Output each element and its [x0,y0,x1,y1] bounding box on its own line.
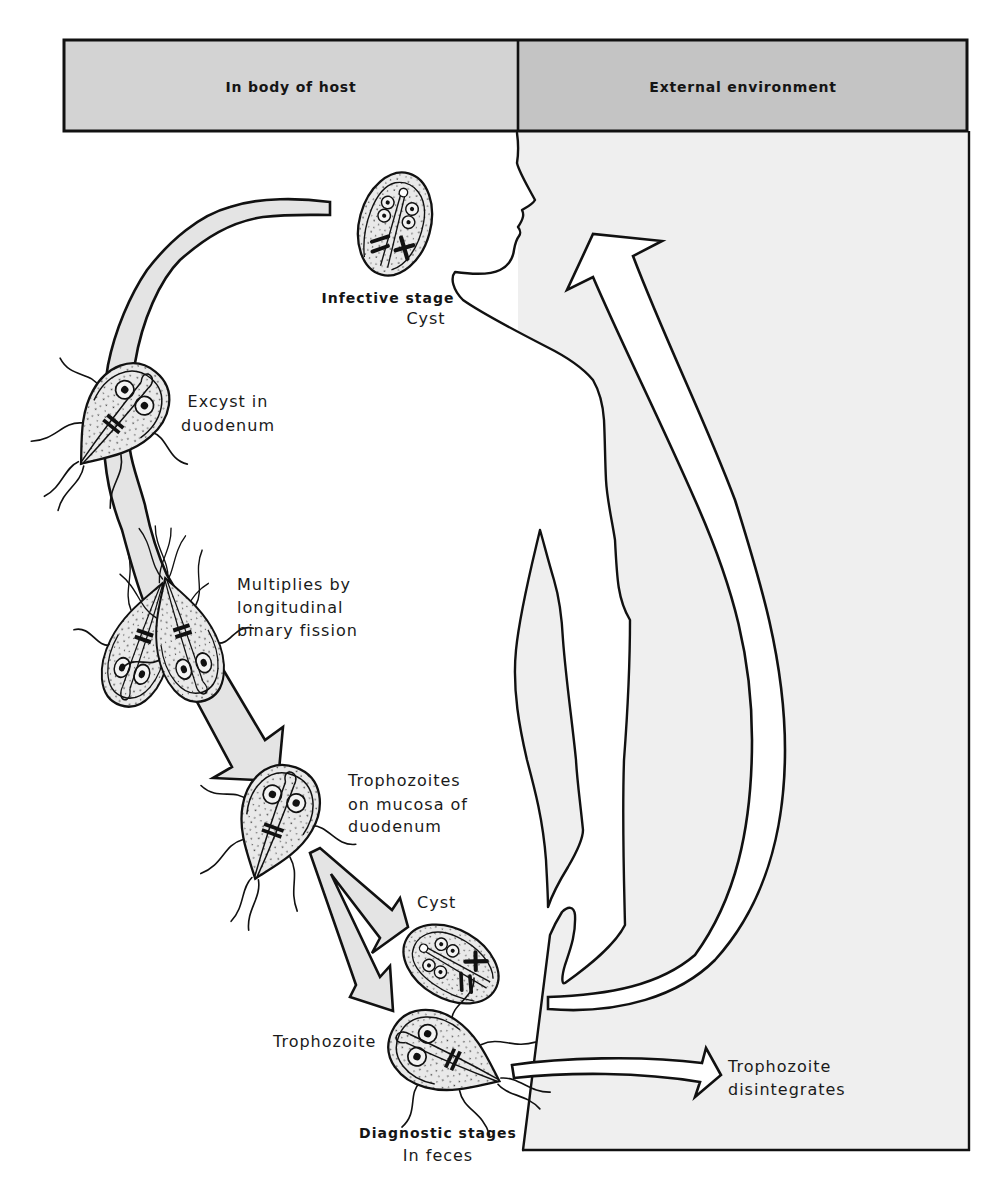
infective-stage-title: Infective stage [321,290,454,306]
giardia-life-cycle-diagram: In body of host External environment Inf… [0,0,997,1193]
infective-stage-form: Cyst [406,309,445,328]
infective-cyst-illustration [347,164,443,284]
disintegrates-line-1: Trophozoite [727,1057,831,1076]
label-diagnostic-stages: Diagnostic stages In feces [359,1125,517,1165]
excyst-line-1: Excyst in [188,392,269,411]
trophozoites-line-3: duodenum [348,817,442,836]
diagnostic-stages-title: Diagnostic stages [359,1125,517,1141]
trophozoites-line-2: on mucosa of [348,795,468,814]
excyst-line-2: duodenum [181,416,275,435]
label-infective-stage: Infective stage Cyst [321,290,454,328]
multiplies-line-3: binary fission [237,621,358,640]
header-external-label: External environment [649,79,836,95]
multiplies-line-2: longitudinal [237,598,343,617]
arrow-to-diagnostic-stages [310,848,408,1011]
label-trophozoites-mucosa: Trophozoites on mucosa of duodenum [347,771,468,836]
label-trophozoite: Trophozoite [272,1032,376,1051]
diagnostic-stages-location: In feces [403,1146,473,1165]
label-cyst: Cyst [417,893,456,912]
trophozoites-line-1: Trophozoites [347,771,461,790]
multiplies-line-1: Multiplies by [237,575,351,594]
label-multiplies: Multiplies by longitudinal binary fissio… [237,575,358,640]
label-excyst: Excyst in duodenum [181,392,275,435]
disintegrates-line-2: disintegrates [728,1080,846,1099]
header-host-label: In body of host [226,79,357,95]
header-bar: In body of host External environment [64,40,967,132]
